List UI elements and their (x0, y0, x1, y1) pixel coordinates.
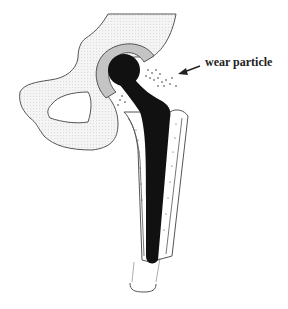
femur-cut-end (130, 283, 156, 292)
wear-particle-label: wear particle (205, 55, 272, 70)
arrow-icon (178, 66, 200, 75)
hip-implant-diagram (0, 0, 288, 309)
